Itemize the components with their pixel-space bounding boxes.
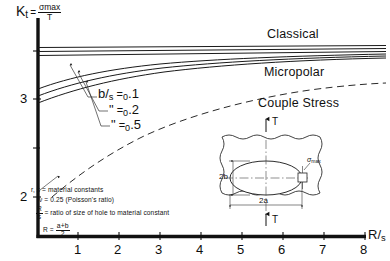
inset-label-sigma-max: σmax [307, 156, 321, 164]
legend-line-poisson: ν = 0.25 (Poisson's ratio) [39, 197, 169, 204]
legend-line-constants: r, s = material constants [31, 187, 169, 194]
legend-R-lead: R = [43, 227, 54, 234]
inset-label-2a: 2a [259, 197, 268, 205]
x-axis-label-num: R [368, 227, 377, 242]
figure-container: Kt= σmax T R/s 3 2 1 2 3 4 5 6 7 8 Class… [0, 0, 390, 261]
series-label-micropolar: Micropolar [264, 66, 324, 79]
curve-annotation-bs-05-val: .5 [130, 117, 141, 132]
x-axis-label-den: s [381, 233, 386, 243]
curve-annotation-bs-01: b/s =0.1 [98, 87, 139, 102]
classical-curve-1 [38, 46, 386, 48]
inset-label-top-load: T [272, 117, 278, 127]
legend-R-den: 2 [56, 231, 70, 238]
curve-annotation-bs-01-val: .1 [128, 86, 139, 101]
legend-line-R-definition: R = a+b 2 [43, 223, 169, 238]
y-axis-label-eq: = [30, 7, 36, 18]
inset-diagram [220, 119, 322, 226]
classical-curve-2 [38, 49, 386, 52]
x-tick-label-3: 3 [155, 243, 162, 256]
legend-ratio-text: = ratio of size of hole to material cons… [44, 210, 169, 217]
x-tick-label-4: 4 [196, 243, 203, 256]
x-axis-label: R/s [368, 228, 386, 243]
series-label-couple-stress: Couple Stress [258, 97, 339, 110]
inset-sigma-subscript: max [311, 158, 320, 164]
legend-ratio-den: s [36, 214, 43, 221]
classical-curves [38, 46, 386, 56]
x-tick-label-5: 5 [237, 243, 244, 256]
inset-label-2b: 2b [219, 173, 228, 181]
x-tick-label-1: 1 [74, 243, 81, 256]
y-axis-label-main: K [16, 3, 25, 19]
inset-label-bottom-load: T [272, 215, 278, 225]
y-axis-label-sub: t [25, 9, 28, 20]
curve-annotation-bs-02-val: .2 [128, 102, 139, 117]
x-tick-label-2: 2 [114, 243, 121, 256]
x-tick-label-7: 7 [319, 243, 326, 256]
legend-block: r, s = material constants ν = 0.25 (Pois… [31, 187, 169, 238]
curve-annotation-bs-02: " =0.2 [109, 103, 139, 118]
legend-line-ratio: R s = ratio of size of hole to material … [36, 206, 169, 220]
x-tick-label-6: 6 [278, 243, 285, 256]
series-label-classical: Classical [267, 28, 319, 41]
y-tick-label-2: 2 [20, 190, 27, 203]
y-axis-label: Kt= σmax T [16, 3, 61, 21]
micropolar-curve-bs-02 [38, 56, 386, 96]
x-tick-label-8: 8 [360, 243, 367, 256]
y-axis-label-den: T [38, 13, 61, 22]
y-tick-label-3: 3 [20, 92, 27, 105]
curve-annotation-bs-05: " =0.5 [111, 118, 141, 133]
